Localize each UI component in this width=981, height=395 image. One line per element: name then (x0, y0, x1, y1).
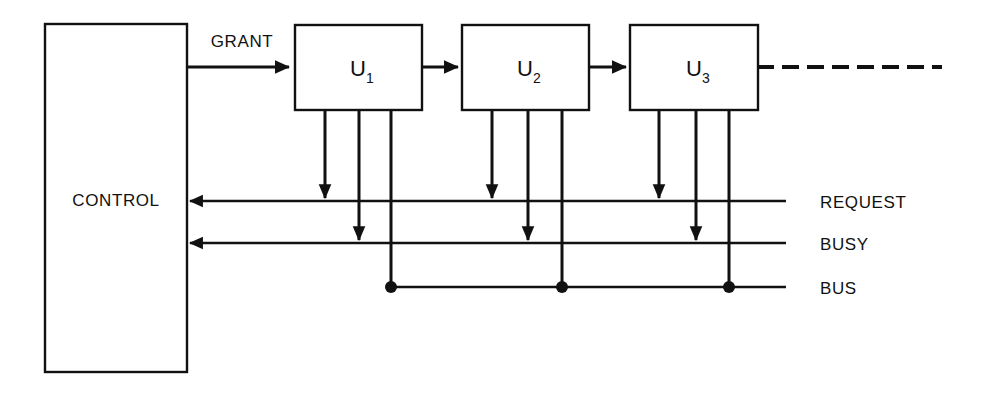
unit-label-u1: U (350, 56, 366, 81)
unit-subscript-u3: 3 (702, 70, 710, 86)
unit-label-u2: U (517, 56, 533, 81)
diagram-canvas: CONTROL GRANT U 1 U 2 U 3 (0, 0, 981, 395)
request-label: REQUEST (820, 193, 906, 212)
bus-arbitration-diagram: CONTROL GRANT U 1 U 2 U 3 (0, 0, 981, 395)
unit-subscript-u2: 2 (533, 70, 541, 86)
u1-bus-junction-dot (385, 281, 397, 293)
u2-bus-junction-dot (556, 281, 568, 293)
busy-label: BUSY (820, 235, 869, 254)
control-box-label: CONTROL (72, 191, 159, 210)
bus-label: BUS (820, 279, 857, 298)
unit-subscript-u1: 1 (366, 70, 374, 86)
unit-label-u3: U (686, 56, 702, 81)
grant-label: GRANT (211, 32, 274, 51)
u3-bus-junction-dot (723, 281, 735, 293)
